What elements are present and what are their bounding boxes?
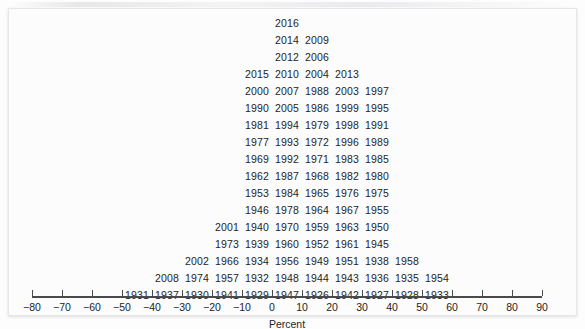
stack-value: 1997 bbox=[365, 85, 389, 97]
stack-value: 1951 bbox=[335, 255, 359, 267]
stack-value: 1937 bbox=[155, 289, 179, 301]
x-axis-tick bbox=[542, 290, 543, 296]
stack-value: 1939 bbox=[245, 238, 269, 250]
x-axis-tick bbox=[272, 290, 273, 296]
stack-value: 1961 bbox=[335, 238, 359, 250]
x-axis-tick-label: −30 bbox=[173, 301, 191, 313]
stack-value: 1956 bbox=[275, 255, 299, 267]
x-axis-tick bbox=[392, 290, 393, 296]
stack-value: 1962 bbox=[245, 170, 269, 182]
stack-value: 1936 bbox=[365, 272, 389, 284]
stack-value: 1989 bbox=[365, 136, 389, 148]
x-axis-tick bbox=[62, 290, 63, 296]
stack-value: 1948 bbox=[275, 272, 299, 284]
x-axis-tick bbox=[122, 290, 123, 296]
stack-value: 1990 bbox=[245, 102, 269, 114]
stack-value: 2015 bbox=[245, 68, 269, 80]
stack-value: 1971 bbox=[305, 153, 329, 165]
stack-value: 1978 bbox=[275, 204, 299, 216]
stack-value: 1930 bbox=[185, 289, 209, 301]
stack-value: 2016 bbox=[275, 17, 299, 29]
x-axis-tick-label: −50 bbox=[113, 301, 131, 313]
stack-value: 1952 bbox=[305, 238, 329, 250]
x-axis-tick-label: −60 bbox=[83, 301, 101, 313]
stack-value: 1986 bbox=[305, 102, 329, 114]
x-axis-tick-label: 70 bbox=[476, 301, 488, 313]
stack-value: 1940 bbox=[245, 221, 269, 233]
stack-value: 2010 bbox=[275, 68, 299, 80]
stack-value: 1973 bbox=[215, 238, 239, 250]
x-axis-tick bbox=[32, 290, 33, 296]
stack-value: 1979 bbox=[305, 119, 329, 131]
x-axis-tick-label: 20 bbox=[326, 301, 338, 313]
stack-value: 2009 bbox=[305, 34, 329, 46]
x-axis-tick bbox=[152, 290, 153, 296]
stack-value: 1949 bbox=[305, 255, 329, 267]
stack-value: 1981 bbox=[245, 119, 269, 131]
stack-value: 1977 bbox=[245, 136, 269, 148]
stack-value: 1931 bbox=[125, 289, 149, 301]
stack-value: 2014 bbox=[275, 34, 299, 46]
stack-value: 1993 bbox=[275, 136, 299, 148]
stack-value: 1953 bbox=[245, 187, 269, 199]
x-axis-tick-label: 10 bbox=[296, 301, 308, 313]
stack-value: 2004 bbox=[305, 68, 329, 80]
stack-value: 1984 bbox=[275, 187, 299, 199]
stack-value: 1927 bbox=[365, 289, 389, 301]
stack-value: 1926 bbox=[305, 289, 329, 301]
x-axis-tick bbox=[422, 290, 423, 296]
stack-value: 1966 bbox=[215, 255, 239, 267]
x-axis-tick-label: 50 bbox=[416, 301, 428, 313]
stack-value: 1974 bbox=[185, 272, 209, 284]
stack-value: 1941 bbox=[215, 289, 239, 301]
stack-value: 1999 bbox=[335, 102, 359, 114]
stack-value: 2006 bbox=[305, 51, 329, 63]
stack-value: 1967 bbox=[335, 204, 359, 216]
x-axis-tick bbox=[452, 290, 453, 296]
stack-value: 2000 bbox=[245, 85, 269, 97]
x-axis-tick-label: −20 bbox=[203, 301, 221, 313]
x-axis-tick bbox=[332, 290, 333, 296]
stack-value: 1929 bbox=[245, 289, 269, 301]
x-axis-tick bbox=[362, 290, 363, 296]
x-axis-tick-label: −80 bbox=[23, 301, 41, 313]
x-axis-line bbox=[32, 296, 542, 298]
stack-value: 1965 bbox=[305, 187, 329, 199]
x-axis-tick-label: −10 bbox=[233, 301, 251, 313]
x-axis-tick-label: −70 bbox=[53, 301, 71, 313]
stack-value: 1985 bbox=[365, 153, 389, 165]
stack-value: 1947 bbox=[275, 289, 299, 301]
stack-value: 2012 bbox=[275, 51, 299, 63]
x-axis-tick bbox=[242, 290, 243, 296]
x-axis-tick-label: 90 bbox=[536, 301, 548, 313]
x-axis-tick-label: 30 bbox=[356, 301, 368, 313]
stack-value: 1970 bbox=[275, 221, 299, 233]
stack-value: 1982 bbox=[335, 170, 359, 182]
stack-value: 1988 bbox=[305, 85, 329, 97]
stack-value: 1995 bbox=[365, 102, 389, 114]
stack-value: 1980 bbox=[365, 170, 389, 182]
x-axis-tick-label: 80 bbox=[506, 301, 518, 313]
stack-value: 1968 bbox=[305, 170, 329, 182]
stack-value: 1945 bbox=[365, 238, 389, 250]
stack-value: 1959 bbox=[305, 221, 329, 233]
x-axis-tick-label: 0 bbox=[269, 301, 275, 313]
stack-value: 2013 bbox=[335, 68, 359, 80]
stack-value: 2002 bbox=[185, 255, 209, 267]
x-axis-tick-label: 60 bbox=[446, 301, 458, 313]
stack-value: 1976 bbox=[335, 187, 359, 199]
stack-value: 1934 bbox=[245, 255, 269, 267]
stack-value: 1946 bbox=[245, 204, 269, 216]
stack-value: 1935 bbox=[395, 272, 419, 284]
stack-value: 1944 bbox=[305, 272, 329, 284]
figure-root: 2016201420092012200620152010200420132000… bbox=[0, 0, 585, 329]
stack-value: 1972 bbox=[305, 136, 329, 148]
stack-value: 1932 bbox=[245, 272, 269, 284]
stack-value: 1933 bbox=[425, 289, 449, 301]
x-axis-tick-label: 40 bbox=[386, 301, 398, 313]
stack-value: 1954 bbox=[425, 272, 449, 284]
stack-value: 1942 bbox=[335, 289, 359, 301]
stack-value: 1987 bbox=[275, 170, 299, 182]
stack-value: 2001 bbox=[215, 221, 239, 233]
x-axis-tick bbox=[482, 290, 483, 296]
